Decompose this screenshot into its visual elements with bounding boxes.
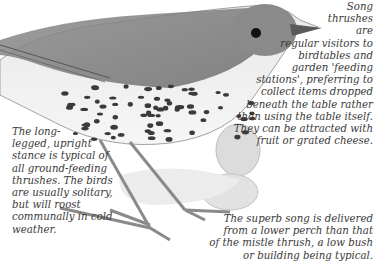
breast-spot [128, 102, 133, 107]
caption-line: beneath the table rather [198, 99, 373, 111]
breast-spot [147, 123, 153, 128]
breast-spot [100, 104, 107, 108]
breast-spot [145, 103, 152, 108]
breast-spot [187, 104, 194, 109]
breast-spot [175, 107, 180, 112]
caption-line: The superb song is delivered [183, 213, 373, 225]
caption-line: regular visitors to [198, 38, 373, 50]
page-mark: ′′ [318, 241, 323, 255]
breast-spot [112, 103, 118, 106]
breast-spot [118, 133, 125, 137]
breast-spot [156, 86, 162, 90]
breast-spot [140, 114, 147, 118]
breast-spot [189, 110, 197, 114]
caption-line: stance is typical of [12, 150, 112, 162]
caption-line: of the mistle thrush, a low bush [183, 237, 373, 249]
breast-spot [188, 88, 194, 91]
caption-line: thrushes. The birds [12, 175, 112, 187]
caption-line: but will roost [12, 199, 112, 211]
caption-line: thrushes [198, 13, 373, 25]
caption-line: fruit or grated cheese. [198, 135, 373, 147]
breast-spot [164, 99, 170, 102]
breast-spot [166, 137, 173, 142]
caption-line: Song [198, 1, 373, 13]
caption-line: all ground-feeding [12, 163, 112, 175]
caption-stance: The long-legged, uprightstance is typica… [12, 126, 112, 236]
breast-spot [189, 131, 195, 136]
breast-spot [157, 107, 165, 111]
breast-spot [84, 96, 90, 99]
breast-spot [148, 136, 156, 140]
caption-line: stations', preferring to [198, 74, 373, 86]
caption-song: The superb song is deliveredfrom a lower… [183, 213, 373, 262]
caption-line: from a lower perch than that [183, 225, 373, 237]
breast-spot [124, 84, 129, 88]
breast-spot [148, 131, 155, 135]
breast-spot [155, 114, 160, 117]
breast-spot [182, 88, 188, 91]
breast-spot [97, 113, 103, 116]
caption-line: legged, upright [12, 138, 112, 150]
breast-spot [144, 87, 152, 91]
caption-line: or building being typical. [183, 250, 373, 262]
caption-line: are usually solitary, [12, 187, 112, 199]
caption-line: collect items dropped [198, 86, 373, 98]
breast-spot [94, 119, 100, 123]
caption-line: The long- [12, 126, 112, 138]
breast-spot [164, 129, 172, 132]
breast-spot [61, 91, 68, 95]
breast-spot [113, 115, 118, 119]
breast-spot [154, 97, 160, 101]
caption-line: communally in cold [12, 211, 112, 223]
caption-feeding: Songthrushesareregular visitors tobirdta… [198, 1, 373, 147]
caption-line: weather. [12, 224, 112, 236]
caption-line: are [198, 25, 373, 37]
breast-spot [91, 86, 96, 89]
breast-spot [168, 84, 174, 88]
caption-line: garden 'feeding [198, 62, 373, 74]
caption-line: They can be attracted with [198, 123, 373, 135]
breast-spot [67, 103, 73, 108]
caption-line: than using the table itself. [198, 111, 373, 123]
breast-spot [109, 96, 116, 99]
breast-spot [188, 92, 195, 95]
caption-line: birdtables and [198, 50, 373, 62]
breast-spot [147, 114, 155, 117]
breast-spot [80, 108, 88, 111]
breast-spot [156, 121, 163, 126]
breast-spot [138, 96, 144, 99]
breast-spot [95, 100, 100, 104]
